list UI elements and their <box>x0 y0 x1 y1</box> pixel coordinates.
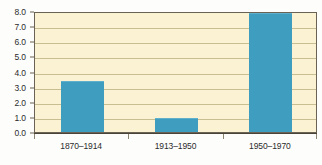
x-axis-ticks <box>34 134 317 139</box>
y-tick-label: 3.0 <box>14 83 26 93</box>
x-axis: 1870–19141913–19501950–1970 <box>34 141 317 155</box>
x-tick-mark <box>316 134 317 139</box>
x-tick-mark <box>34 134 35 139</box>
bar <box>155 118 198 132</box>
bar <box>61 81 104 132</box>
bar-chart-figure: 0.01.02.03.04.05.06.07.08.0 1870–1914191… <box>0 0 322 165</box>
y-tick-label: 1.0 <box>14 113 26 123</box>
x-tick-label: 1913–1950 <box>155 141 197 151</box>
bars-group <box>35 13 316 132</box>
y-tick-label: 4.0 <box>14 68 26 78</box>
x-tick-label: 1950–1970 <box>249 141 291 151</box>
y-tick-label: 8.0 <box>14 7 26 17</box>
x-tick-mark <box>223 134 224 139</box>
plot-area <box>34 12 317 133</box>
bar <box>249 13 292 132</box>
y-tick-label: 0.0 <box>14 128 26 138</box>
y-tick-label: 2.0 <box>14 98 26 108</box>
y-tick-label: 7.0 <box>14 22 26 32</box>
x-tick-label: 1870–1914 <box>60 141 102 151</box>
y-axis: 0.01.02.03.04.05.06.07.08.0 <box>0 12 30 133</box>
y-tick-label: 5.0 <box>14 52 26 62</box>
y-tick-label: 6.0 <box>14 37 26 47</box>
x-tick-mark <box>128 134 129 139</box>
